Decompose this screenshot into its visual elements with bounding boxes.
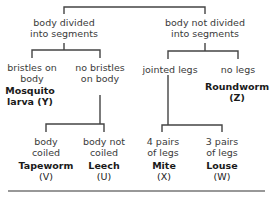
node-body-not-coiled: body not coiled	[83, 136, 125, 158]
node-text: body not divided	[165, 17, 245, 28]
organism-mosquito-larva: Mosquito larva (Y)	[5, 85, 55, 107]
organism-code: (V)	[19, 171, 74, 182]
root-branch-line	[64, 7, 205, 14]
organism-name: larva (Y)	[5, 96, 55, 107]
organism-name: Roundworm	[205, 81, 269, 92]
node-body-coiled: body coiled	[32, 136, 60, 158]
node-text: bristles on	[7, 62, 57, 73]
node-text: of legs	[147, 147, 179, 158]
node-3-pairs-legs: 3 pairs of legs	[206, 136, 238, 158]
node-text: body divided	[30, 17, 98, 28]
organism-code: (U)	[88, 171, 119, 182]
organism-mite: Mite (X)	[152, 160, 176, 182]
node-text: no legs	[221, 64, 255, 75]
node-text: body	[32, 136, 60, 147]
node-bristles-on-body: bristles on body	[7, 62, 57, 84]
node-text: no bristles	[75, 62, 125, 73]
node-text: coiled	[32, 147, 60, 158]
organism-name: Tapeworm	[19, 160, 74, 171]
organism-roundworm: Roundworm (Z)	[205, 81, 269, 103]
organism-name: Leech	[88, 160, 119, 171]
node-body-not-divided: body not divided into segments	[165, 17, 245, 39]
organism-name: Mite	[152, 160, 176, 171]
node-text: body not	[83, 136, 125, 147]
node-body-divided: body divided into segments	[30, 17, 98, 39]
node-text: into segments	[165, 28, 245, 39]
organism-name: Mosquito	[5, 85, 55, 96]
node-jointed-legs: jointed legs	[142, 64, 197, 75]
node-text: of legs	[206, 147, 238, 158]
not-segmented-branch-line	[168, 43, 238, 59]
node-text: jointed legs	[142, 64, 197, 75]
node-text: 4 pairs	[147, 136, 179, 147]
organism-tapeworm: Tapeworm (V)	[19, 160, 74, 182]
organism-code: (W)	[206, 171, 237, 182]
organism-louse: Louse (W)	[206, 160, 237, 182]
node-4-pairs-legs: 4 pairs of legs	[147, 136, 179, 158]
node-text: into segments	[30, 28, 98, 39]
organism-leech: Leech (U)	[88, 160, 119, 182]
organism-code: (Z)	[205, 92, 269, 103]
organism-code: (X)	[152, 171, 176, 182]
node-text: body	[7, 73, 57, 84]
node-text: coiled	[83, 147, 125, 158]
segmented-branch-line	[32, 43, 100, 58]
node-no-bristles: no bristles on body	[75, 62, 125, 84]
node-no-legs: no legs	[221, 64, 255, 75]
node-text: on body	[75, 73, 125, 84]
organism-name: Louse	[206, 160, 237, 171]
node-text: 3 pairs	[206, 136, 238, 147]
